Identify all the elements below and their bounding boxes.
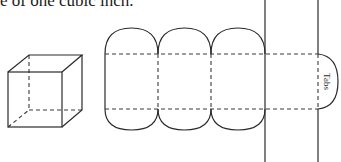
net-bottom-flap-1 [105, 109, 158, 130]
diagram-canvas: Tabs [0, 0, 341, 162]
net-top-flap-2 [158, 28, 211, 54]
cube-net: Tabs [105, 0, 338, 162]
cube-top-face [8, 55, 82, 72]
cube-right-face [62, 55, 82, 127]
net-top-flap-3 [211, 28, 265, 54]
net-top-flap-1 [105, 28, 158, 54]
cube-drawing [8, 55, 82, 127]
net-bottom-flap-3 [211, 109, 265, 130]
cube-front-face [8, 72, 62, 127]
net-bottom-flap-2 [158, 109, 211, 130]
cube-hidden-edge-diagonal [8, 110, 29, 127]
tab-label: Tabs [322, 73, 332, 90]
